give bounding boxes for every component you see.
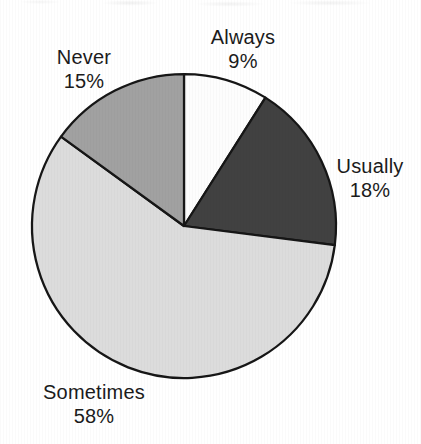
pie-slice-group (32, 74, 336, 378)
slice-name-always: Always (211, 25, 276, 49)
slice-percent-sometimes: 58% (43, 404, 145, 428)
slice-percent-usually: 18% (337, 178, 404, 202)
pie-chart-figure: Always 9% Usually 18% Sometimes 58% Neve… (0, 0, 421, 444)
slice-label-usually: Usually 18% (337, 154, 404, 202)
slice-label-always: Always 9% (211, 25, 276, 73)
slice-label-sometimes: Sometimes 58% (43, 380, 145, 428)
slice-percent-never: 15% (57, 69, 111, 93)
slice-percent-always: 9% (211, 49, 276, 73)
slice-name-never: Never (57, 45, 111, 69)
slice-label-never: Never 15% (57, 45, 111, 93)
slice-name-sometimes: Sometimes (43, 380, 145, 404)
slice-name-usually: Usually (337, 154, 404, 178)
